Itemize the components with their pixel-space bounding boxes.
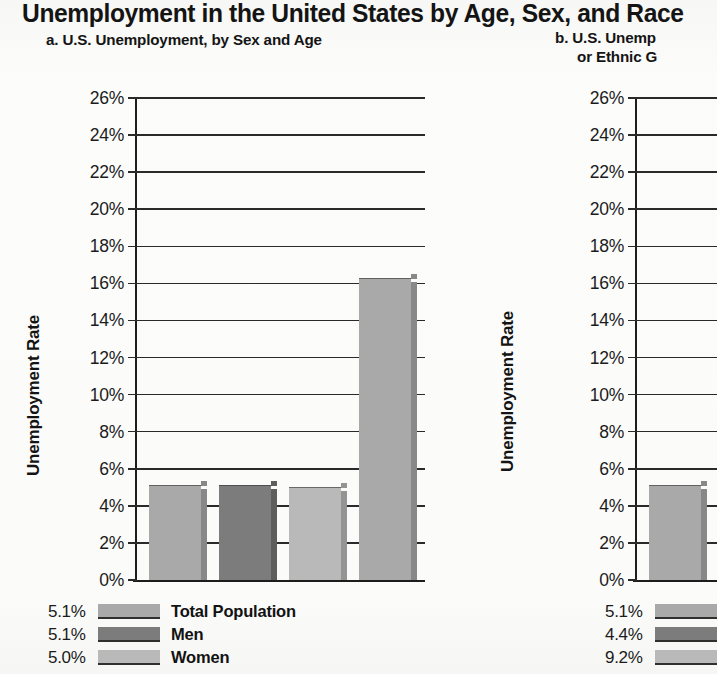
gridline (635, 320, 717, 322)
y-axis-tick (628, 246, 637, 248)
legend-value: 9.2% (605, 648, 651, 668)
legend-row: 5.0%Women (48, 646, 296, 669)
figure-page: Unemployment in the United States by Age… (0, 0, 717, 674)
y-axis-tick (128, 542, 137, 544)
legend-value: 5.0% (48, 648, 94, 668)
gridline (635, 394, 717, 396)
y-axis-tick (628, 134, 637, 136)
y-axis-tick (628, 320, 637, 322)
gridline (635, 134, 717, 136)
legend-value: 5.1% (605, 602, 651, 622)
y-axis-tick-label: 20% (590, 199, 624, 220)
gridline (635, 208, 717, 210)
bar-face (289, 487, 341, 580)
bar-side-3d (701, 489, 707, 580)
y-axis-tick-label: 10% (590, 384, 624, 405)
y-axis-tick-label: 26% (590, 88, 624, 109)
bar-side-3d (201, 489, 207, 580)
gridline (135, 171, 425, 173)
y-axis-label-b: Unemployment Rate (498, 311, 518, 472)
y-axis-tick (128, 134, 137, 136)
y-axis-tick (628, 208, 637, 210)
bar-face (219, 485, 271, 580)
legend-row: 4.4% (605, 623, 717, 646)
y-axis-tick-label: 6% (599, 458, 624, 479)
legend-panel-a: 5.1%Total Population5.1%Men5.0%Women (48, 600, 296, 669)
legend-label: Men (171, 625, 203, 644)
chart-panel-b: Unemployment Rate 0%2%4%6%8%10%12%14%16%… (480, 60, 717, 674)
y-axis-tick-label: 16% (90, 273, 124, 294)
y-axis-tick-label: 22% (90, 162, 124, 183)
gridline (635, 357, 717, 359)
y-axis-tick (628, 579, 637, 581)
y-axis-tick-label: 2% (99, 532, 124, 553)
legend-label: Total Population (171, 602, 296, 621)
gridline (635, 431, 717, 433)
y-axis-tick (628, 431, 637, 433)
legend-row: 5.1% (605, 600, 717, 623)
y-axis-tick-label: 4% (99, 495, 124, 516)
bar-top-3d (271, 481, 277, 486)
y-axis-tick-label: 16% (590, 273, 624, 294)
y-axis-tick-label: 2% (599, 532, 624, 553)
y-axis-tick (128, 171, 137, 173)
panel-a-subtitle: a. U.S. Unemployment, by Sex and Age (46, 30, 322, 49)
y-axis-tick-label: 14% (90, 310, 124, 331)
y-axis-tick (628, 542, 637, 544)
y-axis-tick-label: 0% (99, 570, 124, 591)
bar-men[interactable] (219, 485, 271, 580)
y-axis-tick-label: 8% (599, 421, 624, 442)
legend-row: 5.1%Men (48, 623, 296, 646)
y-axis-tick-label: 4% (599, 495, 624, 516)
y-axis-line-b (635, 98, 637, 580)
y-axis-tick (128, 505, 137, 507)
y-axis-tick (128, 468, 137, 470)
legend-color-swatch (655, 604, 717, 619)
y-axis-tick-label: 18% (90, 236, 124, 257)
y-axis-tick-label: 14% (590, 310, 624, 331)
y-axis-tick (128, 357, 137, 359)
legend-value: 5.1% (48, 602, 94, 622)
y-axis-tick (128, 579, 137, 581)
y-axis-tick (128, 208, 137, 210)
y-axis-tick (628, 171, 637, 173)
legend-value: 5.1% (48, 625, 94, 645)
bar-side-3d (411, 282, 417, 580)
gridline (635, 468, 717, 470)
y-axis-tick (628, 505, 637, 507)
bar-face (649, 485, 701, 580)
y-axis-tick-label: 10% (90, 384, 124, 405)
y-axis-tick (128, 431, 137, 433)
bar-side-3d (271, 489, 277, 580)
y-axis-tick-label: 24% (590, 125, 624, 146)
bar-item-1[interactable] (649, 485, 701, 580)
y-axis-tick-label: 12% (90, 347, 124, 368)
legend-panel-b: 5.1%4.4%9.2% (605, 600, 717, 669)
bar-teenagers[interactable] (359, 278, 411, 580)
gridline (135, 134, 425, 136)
bar-face (149, 485, 201, 580)
gridline (135, 97, 425, 99)
gridline (635, 171, 717, 173)
bar-top-3d (201, 481, 207, 486)
bar-face (359, 278, 411, 580)
legend-row: 9.2% (605, 646, 717, 669)
y-axis-tick-label: 18% (590, 236, 624, 257)
y-axis-tick (128, 246, 137, 248)
y-axis-tick-label: 26% (90, 88, 124, 109)
legend-row: 5.1%Total Population (48, 600, 296, 623)
bar-side-3d (341, 491, 347, 580)
legend-color-swatch (655, 650, 717, 665)
y-axis-tick (628, 468, 637, 470)
y-axis-tick (628, 357, 637, 359)
y-axis-tick (128, 320, 137, 322)
y-axis-tick (628, 97, 637, 99)
bar-women[interactable] (289, 487, 341, 580)
y-axis-tick-label: 22% (590, 162, 624, 183)
y-axis-tick (128, 283, 137, 285)
y-axis-tick-label: 6% (99, 458, 124, 479)
figure-title: Unemployment in the United States by Age… (22, 0, 698, 27)
bar-total-population[interactable] (149, 485, 201, 580)
legend-color-swatch (98, 604, 160, 619)
y-axis-tick-label: 24% (90, 125, 124, 146)
